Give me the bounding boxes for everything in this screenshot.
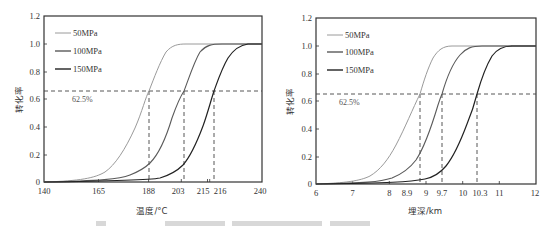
right-xtick: 9	[424, 188, 428, 198]
right-xtick: 6	[314, 188, 318, 198]
right-ytick: 1.0	[301, 41, 312, 51]
left-ytick: 0.4	[29, 122, 40, 132]
right-xtick: 8.9	[402, 188, 413, 198]
left-xtick: 140	[38, 186, 51, 196]
right-xtick: 11	[495, 188, 503, 198]
left-ytick: 0.8	[29, 67, 40, 77]
right-ytick: 1.2	[301, 13, 312, 23]
left-legend: 50MPa 100MPa 150MPa	[55, 28, 102, 74]
right-ytick: 0.8	[301, 69, 312, 79]
left-ytick: 1.2	[29, 11, 40, 21]
right-xtick: 9.7	[437, 188, 448, 198]
left-y-axis-label: 转化率	[14, 86, 24, 113]
left-xtick: 216	[214, 186, 227, 196]
right-xtick: 10.3	[473, 188, 488, 198]
left-xtick: 240	[254, 186, 267, 196]
left-annotation-62.5: 62.5%	[72, 95, 93, 104]
right-x-axis-label: 埋深/km	[408, 206, 442, 216]
left-xtick: 165	[92, 186, 105, 196]
right-ytick: 0.6	[301, 96, 312, 106]
figure-caption-blurred	[96, 221, 370, 226]
right-xtick: 8	[387, 188, 391, 198]
legend-50mpa: 50MPa	[345, 30, 370, 40]
left-chart: 1.2 1.0 0.8 0.6 0.4 0.2 0 140 165 188 20…	[14, 11, 266, 216]
left-xtick: 203	[172, 186, 185, 196]
right-xtick: 7	[351, 188, 355, 198]
left-x-axis-label: 温度/°C	[136, 206, 167, 216]
right-ytick: 0	[308, 179, 312, 189]
right-legend: 50MPa 100MPa 150MPa	[327, 30, 374, 75]
left-reference-lines	[44, 91, 262, 182]
legend-150mpa: 150MPa	[345, 65, 374, 75]
left-ytick: 1.0	[29, 39, 40, 49]
legend-50mpa: 50MPa	[73, 28, 98, 38]
right-ytick: 0.2	[301, 152, 312, 162]
right-ytick: 0.4	[301, 124, 312, 134]
left-ytick: 0.2	[29, 150, 40, 160]
left-xtick: 215	[197, 186, 210, 196]
legend-100mpa: 100MPa	[345, 47, 374, 57]
right-annotation-62.5: 62.5%	[339, 98, 360, 107]
right-xtick: 12	[531, 188, 540, 198]
right-y-axis-label: 转化率	[285, 88, 295, 115]
right-chart: 1.2 1.0 0.8 0.6 0.4 0.2 0 6 7 8 8.9 9 9.…	[285, 13, 539, 216]
legend-100mpa: 100MPa	[73, 46, 102, 56]
right-xtick: 10	[459, 188, 468, 198]
left-ytick: 0.6	[29, 94, 40, 104]
figure: 1.2 1.0 0.8 0.6 0.4 0.2 0 140 165 188 20…	[0, 0, 547, 229]
legend-150mpa: 150MPa	[73, 64, 102, 74]
left-xtick: 188	[142, 186, 155, 196]
